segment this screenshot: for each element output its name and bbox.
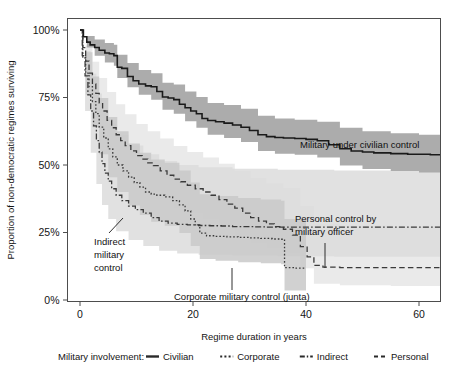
- annotation-civilian-label: Military under civilian control: [300, 139, 419, 150]
- x-axis-title: Regime duration in years: [201, 331, 307, 342]
- y-tick-label: 50%: [38, 159, 59, 171]
- annotation-personal-line2: military officer: [295, 226, 353, 237]
- y-axis-title: Proportion of non-democratic regimes sur…: [5, 60, 16, 259]
- survival-chart-figure: 02040600%25%50%75%100% Military under ci…: [0, 0, 450, 372]
- y-tick-label: 0%: [44, 294, 59, 306]
- x-tick-label: 40: [300, 308, 312, 320]
- x-tick-label: 20: [187, 308, 199, 320]
- annotation-corporate-label: Corporate military control (junta): [174, 291, 310, 302]
- legend-title: Military involvement:: [58, 351, 144, 362]
- annotation-indirect-line2: military: [94, 249, 124, 260]
- annotation-civilian: Military under civilian control: [300, 139, 419, 150]
- y-tick-label: 75%: [38, 91, 59, 103]
- legend-label-corporate: Corporate: [237, 351, 279, 362]
- legend-label-personal: Personal: [391, 351, 429, 362]
- legend-label-civilian: Civilian: [163, 351, 194, 362]
- annotation-personal-line1: Personal control by: [295, 213, 377, 224]
- annotation-indirect-line3: control: [94, 262, 123, 273]
- y-tick-label: 25%: [38, 226, 59, 238]
- x-tick-label: 0: [77, 308, 83, 320]
- x-tick-label: 60: [413, 308, 425, 320]
- annotation-indirect-line1: Indirect: [94, 236, 126, 247]
- legend-label-indirect: Indirect: [317, 351, 349, 362]
- chart-canvas: 02040600%25%50%75%100% Military under ci…: [0, 0, 450, 372]
- y-tick-label: 100%: [33, 24, 60, 36]
